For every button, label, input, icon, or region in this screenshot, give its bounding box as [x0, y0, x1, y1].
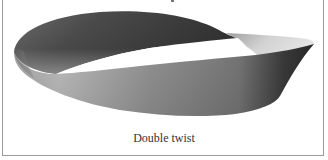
figure-caption: Double twist: [0, 131, 328, 146]
twisted-band-figure: [0, 0, 328, 130]
